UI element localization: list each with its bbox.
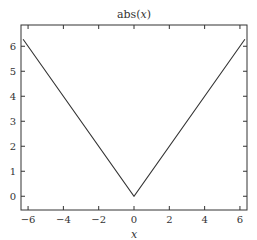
x-tick-label: 6 xyxy=(237,214,243,225)
plot-area: −6−4−202460123456 xyxy=(10,25,247,225)
y-tick-label: 0 xyxy=(10,191,16,202)
y-tick-label: 3 xyxy=(10,116,16,127)
x-axis-label: x xyxy=(131,228,138,240)
y-tick-label: 1 xyxy=(10,166,16,177)
y-tick-label: 2 xyxy=(10,141,16,152)
x-tick-label: 4 xyxy=(201,214,207,225)
chart: abs(x) −6−4−202460123456 x xyxy=(0,0,257,240)
x-tick-label: −6 xyxy=(21,214,36,225)
x-tick-label: 0 xyxy=(131,214,137,225)
chart-title: abs(x) xyxy=(117,8,151,21)
y-tick-label: 6 xyxy=(10,41,16,52)
series-line xyxy=(23,39,245,196)
y-tick-label: 4 xyxy=(10,91,16,102)
x-tick-label: −4 xyxy=(56,214,71,225)
x-tick-label: −2 xyxy=(91,214,106,225)
axes-frame xyxy=(21,25,247,210)
x-tick-label: 2 xyxy=(166,214,172,225)
y-tick-label: 5 xyxy=(10,66,16,77)
